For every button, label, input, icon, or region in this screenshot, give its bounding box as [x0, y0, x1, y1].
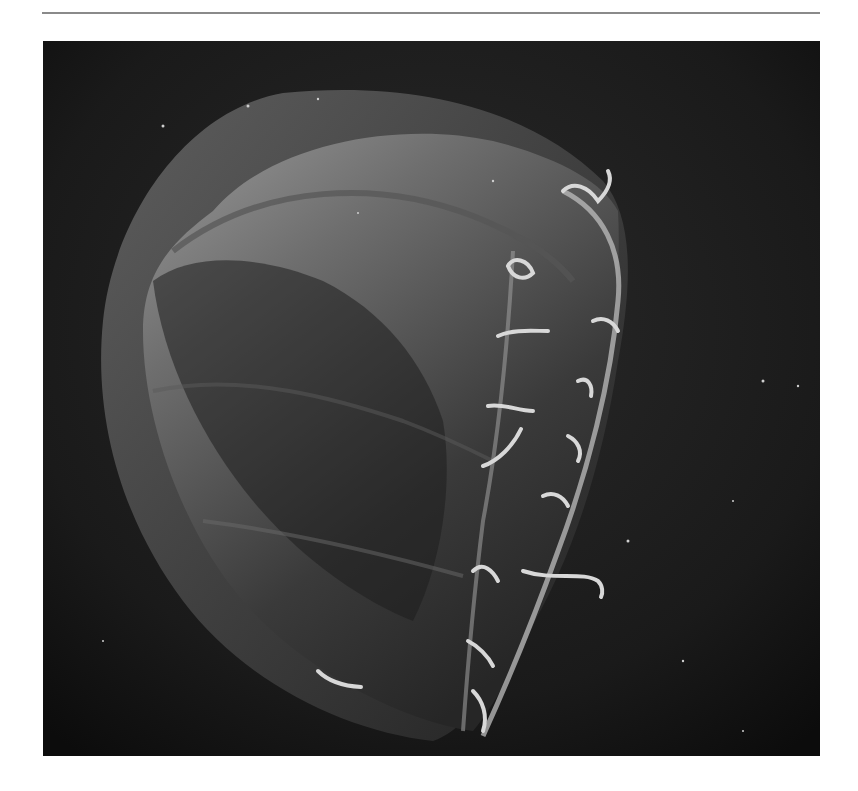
top-divider-rule — [42, 12, 820, 14]
jellyfish-photograph — [43, 41, 820, 756]
jellyfish-illustration — [43, 41, 820, 756]
